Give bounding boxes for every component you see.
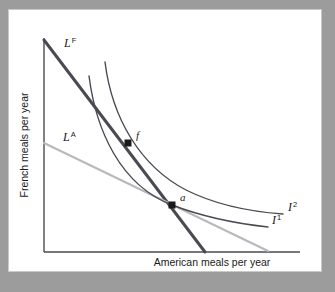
point-label-a: a bbox=[180, 191, 186, 203]
data-point-a bbox=[169, 202, 176, 209]
curve-label-lf: LF bbox=[63, 36, 77, 50]
series-i1 bbox=[89, 76, 268, 227]
curve-label-i1: I1 bbox=[271, 213, 281, 227]
x-axis-label: American meals per year bbox=[154, 256, 271, 268]
figure-root: LFLAI1I2fa American meals per year Frenc… bbox=[0, 0, 335, 292]
series-i2 bbox=[105, 62, 283, 214]
curve-label-i2: I2 bbox=[287, 200, 297, 214]
points-layer bbox=[125, 140, 176, 209]
curve-label-la: LA bbox=[62, 130, 76, 144]
labels-layer: LFLAI1I2fa bbox=[62, 36, 297, 227]
plot-canvas: LFLAI1I2fa American meals per year Frenc… bbox=[0, 0, 335, 292]
data-point-f bbox=[125, 140, 132, 147]
series-layer bbox=[44, 40, 283, 252]
y-axis-label: French meals per year bbox=[18, 92, 30, 198]
point-label-f: f bbox=[136, 129, 141, 141]
